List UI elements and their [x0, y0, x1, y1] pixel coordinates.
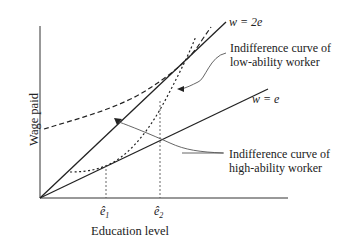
x-axis-label: Education level	[91, 224, 169, 238]
tick-e1: ê1	[100, 204, 109, 223]
annotation-low-ability-line2: low-ability worker	[230, 55, 320, 69]
annotation-low-ability-line1: Indifference curve of	[230, 41, 331, 55]
indifference-curve-low-ability	[44, 27, 211, 129]
tick-e1-sub: 1	[105, 211, 109, 220]
y-axis-label: Wage paid	[27, 93, 42, 146]
annotation-high-ability-line1: Indifference curve of	[229, 147, 330, 161]
leader-high-ability	[119, 122, 223, 153]
tick-e2: ê2	[154, 204, 163, 223]
tick-e2-sub: 2	[159, 211, 163, 220]
signaling-diagram	[0, 0, 364, 250]
annotation-high-ability-line2: high-ability worker	[229, 161, 322, 175]
line-w-e	[40, 89, 268, 198]
arrowhead-low-ability	[177, 86, 184, 92]
label-w-e: w = e	[252, 92, 279, 106]
line-w-2e	[40, 22, 226, 198]
label-w-2e: w = 2e	[229, 15, 262, 29]
